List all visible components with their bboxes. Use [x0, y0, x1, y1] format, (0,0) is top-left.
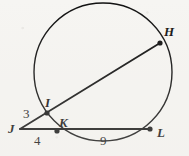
point-label-l: L	[157, 126, 165, 139]
point-dot-i	[44, 110, 49, 115]
point-label-j: J	[8, 122, 15, 135]
circle-outline	[34, 3, 172, 141]
point-dot-h	[157, 40, 162, 45]
point-label-h: H	[164, 25, 174, 38]
point-dot-l	[147, 126, 152, 131]
point-label-k: K	[59, 116, 68, 129]
point-label-i: I	[45, 96, 50, 109]
secant-line-jh	[20, 43, 160, 129]
geometry-figure: J I K H L 3 4 9	[0, 0, 189, 156]
measure-label-kl: 9	[100, 134, 107, 147]
measure-label-ji: 3	[23, 107, 30, 120]
measure-label-jk: 4	[34, 134, 41, 147]
